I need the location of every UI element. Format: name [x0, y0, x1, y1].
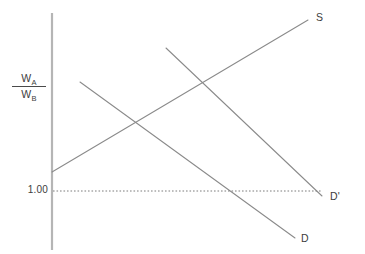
- demand-curve-shifted: [166, 48, 322, 196]
- plot-canvas: [0, 0, 365, 254]
- fraction-bar: [12, 86, 46, 87]
- y-axis-label-denominator: WB: [12, 88, 46, 101]
- demand-curve-shifted-label: D': [330, 190, 340, 202]
- y-axis-label: WA WB: [12, 72, 46, 101]
- y-axis-label-numerator: WA: [12, 72, 46, 85]
- denominator-subscript: B: [31, 94, 36, 103]
- numerator-symbol: W: [21, 72, 31, 84]
- supply-demand-figure: WA WB 1.00 S D' D: [0, 0, 365, 254]
- y-axis-tick-label-1-00: 1.00: [20, 184, 48, 195]
- supply-curve: [52, 20, 308, 172]
- supply-curve-label: S: [316, 11, 323, 23]
- numerator-subscript: A: [31, 78, 36, 87]
- demand-curve-label: D: [301, 232, 309, 244]
- demand-curve: [80, 82, 295, 238]
- denominator-symbol: W: [21, 88, 31, 100]
